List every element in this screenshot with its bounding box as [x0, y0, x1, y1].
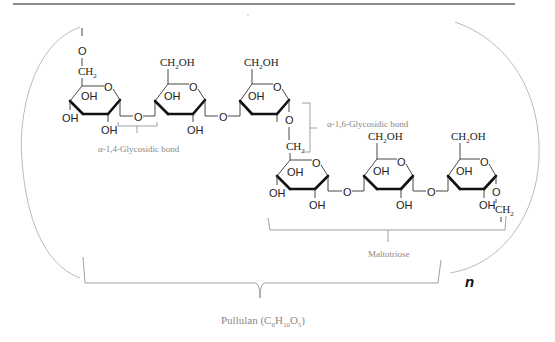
glycosidic-oxygen-3: O	[343, 186, 352, 198]
svg-text:OH: OH	[62, 112, 79, 124]
glucose-ring-2: CH2OH O OH OH	[155, 56, 218, 136]
svg-text:OH: OH	[373, 165, 390, 177]
alpha16-caption: α-1,6-Glycosidic bond	[327, 119, 409, 129]
maltotriose-caption: Maltotriose	[368, 249, 410, 259]
svg-text:O: O	[78, 45, 87, 57]
svg-text:OH: OH	[269, 187, 286, 199]
svg-text:OH: OH	[287, 166, 304, 178]
svg-text:O: O	[492, 186, 501, 198]
svg-text:OH: OH	[187, 124, 204, 136]
alpha14-bracket	[118, 122, 157, 133]
svg-text:O: O	[480, 156, 489, 168]
glucose-ring-3: CH2OH O OH O CH2	[240, 56, 305, 160]
glycosidic-oxygen-4: O	[427, 186, 436, 198]
svg-text:OH: OH	[309, 199, 326, 211]
svg-text:O: O	[312, 157, 321, 169]
svg-text:CH2OH: CH2OH	[244, 56, 279, 71]
svg-text:O: O	[273, 81, 282, 93]
svg-text:OH: OH	[479, 199, 496, 211]
glycosidic-oxygen-2: O	[219, 111, 228, 123]
svg-text:CH2: CH2	[78, 65, 97, 80]
glucose-ring-1: O CH2 O OH OH OH	[62, 28, 133, 136]
pullulan-diagram: n O CH2 O OH OH OH O α-1,4-Glycosidic bo…	[0, 0, 555, 342]
svg-text:O: O	[285, 114, 294, 126]
svg-text:OH: OH	[396, 199, 413, 211]
alpha16-bracket	[302, 103, 317, 152]
svg-text:O: O	[189, 81, 198, 93]
alpha14-caption: α-1,4-Glycosidic bond	[98, 144, 180, 154]
right-repeat-bracket	[450, 22, 539, 273]
glucose-ring-4: O OH OH OH	[269, 157, 342, 211]
svg-text:OH: OH	[248, 90, 265, 102]
svg-text:OH: OH	[101, 124, 118, 136]
repeat-count-label: n	[465, 273, 474, 290]
svg-text:CH2OH: CH2OH	[451, 130, 486, 145]
maltotriose-bracket	[268, 216, 506, 242]
svg-text:CH2: CH2	[286, 140, 305, 155]
svg-text:CH2: CH2	[495, 203, 514, 218]
pullulan-caption: Pullulan (C6H10O5)	[221, 314, 305, 329]
svg-text:O: O	[104, 81, 113, 93]
svg-text:OH: OH	[164, 90, 181, 102]
glucose-ring-6: CH2OH O OH OH O CH2	[448, 130, 514, 222]
pullulan-bracket	[83, 257, 441, 298]
svg-text:O: O	[397, 156, 406, 168]
left-repeat-bracket	[21, 27, 80, 278]
glycosidic-oxygen-1: O	[134, 111, 143, 123]
svg-text:OH: OH	[456, 165, 473, 177]
svg-text:CH2OH: CH2OH	[160, 56, 195, 71]
svg-text:CH2OH: CH2OH	[368, 130, 403, 145]
glucose-ring-5: CH2OH O OH OH	[364, 130, 426, 211]
svg-text:OH: OH	[81, 90, 98, 102]
